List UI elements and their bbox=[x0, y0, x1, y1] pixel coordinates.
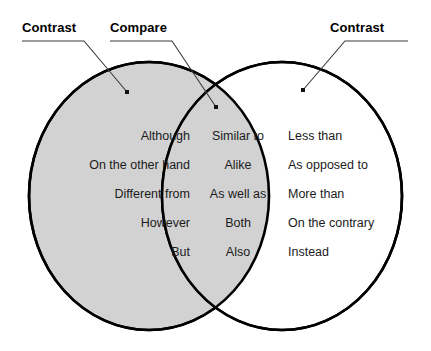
callout-label-contrast-right: Contrast bbox=[330, 20, 384, 35]
list-item: Different from bbox=[38, 180, 190, 209]
venn-diagram: Contrast Compare Contrast Although On th… bbox=[0, 0, 431, 351]
list-item: Less than bbox=[288, 122, 418, 151]
list-item: As opposed to bbox=[288, 151, 418, 180]
list-item: Instead bbox=[288, 238, 418, 267]
list-item: Both bbox=[196, 209, 280, 238]
list-item: But bbox=[38, 238, 190, 267]
left-region-word-list: Although On the other hand Different fro… bbox=[38, 122, 190, 267]
list-item: On the contrary bbox=[288, 209, 418, 238]
list-item: Also bbox=[196, 238, 280, 267]
right-region-word-list: Less than As opposed to More than On the… bbox=[288, 122, 418, 267]
callout-label-contrast-left: Contrast bbox=[22, 20, 76, 35]
list-item: As well as bbox=[196, 180, 280, 209]
list-item: Alike bbox=[196, 151, 280, 180]
center-region-word-list: Similar to Alike As well as Both Also bbox=[196, 122, 280, 267]
list-item: More than bbox=[288, 180, 418, 209]
list-item: On the other hand bbox=[38, 151, 190, 180]
list-item: Although bbox=[38, 122, 190, 151]
list-item: However bbox=[38, 209, 190, 238]
callout-label-compare: Compare bbox=[110, 20, 167, 35]
list-item: Similar to bbox=[196, 122, 280, 151]
